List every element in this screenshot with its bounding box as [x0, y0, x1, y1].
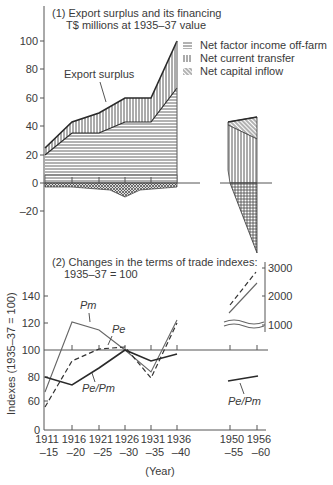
right-ytick-3000: 3000: [268, 262, 292, 274]
ytick-140: 140: [22, 290, 40, 302]
ytick-80: 80: [26, 63, 38, 75]
legend-label-factor-income: Net factor income off-farm: [200, 39, 327, 51]
svg-text:1931: 1931: [141, 433, 165, 445]
ytick-minus20: –20: [20, 205, 38, 217]
label-pm: Pm: [80, 299, 97, 311]
annotation-export-surplus: Export surplus: [64, 68, 135, 80]
ytick-120: 120: [22, 317, 40, 329]
series-pe-pm-1950s: [228, 376, 258, 381]
ytick-100: 100: [20, 35, 38, 47]
legend-label-capital-inflow: Net capital inflow: [200, 65, 283, 77]
right-ytick-1000: 1000: [268, 319, 292, 331]
panel2-subtitle: 1935–37 = 100: [64, 268, 138, 280]
ytick-20: 20: [26, 149, 38, 161]
panel2-y-label: Indexes (1935–37 = 100): [5, 292, 17, 415]
svg-text:1956: 1956: [247, 433, 271, 445]
ytick-80: 80: [28, 371, 40, 383]
panel-1-export-surplus: 100 80 60 40 20 0 –20 (1) Export surplus…: [20, 6, 327, 253]
panel-2-terms-of-trade: (2) Changes in the terms of trade indexe…: [5, 240, 292, 477]
ytick-0: 0: [32, 177, 38, 189]
svg-text:–40: –40: [172, 446, 190, 458]
series-pm-1950s: [229, 283, 257, 313]
svg-text:–30: –30: [120, 446, 138, 458]
right-ytick-2000: 2000: [268, 290, 292, 302]
svg-text:–60: –60: [252, 446, 270, 458]
legend-swatch-current-transfer: [183, 55, 192, 62]
label-pe-pm-1950s: Pe/Pm: [228, 395, 261, 407]
area-1950s-factor-income-negative: [230, 183, 257, 253]
label-pe-pm: Pe/Pm: [82, 382, 115, 394]
panel1-title: (1) Export surplus and its financing: [52, 7, 221, 19]
panel1-y-ticks: [40, 41, 44, 211]
axis-break-mark: [224, 320, 264, 324]
legend: Net factor income off-farm Net current t…: [183, 39, 327, 77]
chart-canvas: 100 80 60 40 20 0 –20 (1) Export surplus…: [0, 0, 333, 485]
ytick-60: 60: [26, 92, 38, 104]
svg-text:1936: 1936: [167, 433, 191, 445]
x-tick-labels: 1911 1916 1921 1926 1931 1936 1950 1956 …: [35, 433, 271, 458]
ytick-60: 60: [28, 395, 40, 407]
legend-swatch-factor-income: [183, 42, 192, 49]
svg-text:1921: 1921: [89, 433, 113, 445]
panel2-title: (2) Changes in the terms of trade indexe…: [52, 256, 257, 268]
series-pe-line: [45, 323, 177, 407]
svg-text:1916: 1916: [62, 433, 86, 445]
label-pe: Pe: [112, 323, 125, 335]
svg-text:1911: 1911: [35, 433, 59, 445]
x-axis-label: (Year): [145, 465, 175, 477]
svg-text:–20: –20: [67, 446, 85, 458]
area-net-capital-inflow-negative: [45, 183, 177, 197]
svg-text:1950: 1950: [220, 433, 244, 445]
panel1-subtitle: T$ millions at 1935–37 value: [66, 19, 206, 31]
series-pe-pm-line: [45, 350, 177, 385]
svg-text:1926: 1926: [115, 433, 139, 445]
legend-label-current-transfer: Net current transfer: [200, 52, 295, 64]
legend-swatch-capital-inflow: [183, 68, 192, 75]
svg-text:–15: –15: [40, 446, 58, 458]
svg-text:–55: –55: [225, 446, 243, 458]
svg-text:–25: –25: [94, 446, 112, 458]
x-ticks: [72, 425, 257, 430]
svg-text:–35: –35: [146, 446, 164, 458]
ytick-40: 40: [26, 120, 38, 132]
ytick-100: 100: [22, 344, 40, 356]
